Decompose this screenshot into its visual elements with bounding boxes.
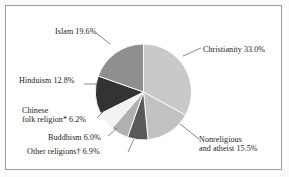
slice-label-hinduism: Hinduism 12.8% xyxy=(19,76,75,85)
slice-label-other-religions: Other religions† 6.9% xyxy=(27,147,100,156)
leader-line-nonreligious xyxy=(180,124,199,139)
leader-line-other xyxy=(128,139,134,152)
slice-label-chinese-line2: folk religion* 6.2% xyxy=(22,115,86,124)
leader-line-christianity xyxy=(183,48,201,56)
slice-label-chinese-folk-religion: Chinese folk religion* 6.2% xyxy=(22,106,102,125)
slice-label-islam: Islam 19.6% xyxy=(55,27,96,36)
slice-label-nonreligious-line1: Nonreligious xyxy=(199,135,242,144)
slice-label-christianity: Christianity 33.0% xyxy=(203,45,265,54)
slice-label-nonreligious-line2: and atheist 15.5% xyxy=(199,144,258,153)
slice-label-chinese-line1: Chinese xyxy=(22,106,48,115)
slice-label-nonreligious: Nonreligious and atheist 15.5% xyxy=(199,135,279,154)
leader-line-islam xyxy=(96,33,110,44)
pie-slice-group xyxy=(96,44,192,140)
chart-canvas: Christianity 33.0% Nonreligious and athe… xyxy=(0,0,289,177)
slice-label-buddhism: Buddhism 6.0% xyxy=(48,133,101,142)
